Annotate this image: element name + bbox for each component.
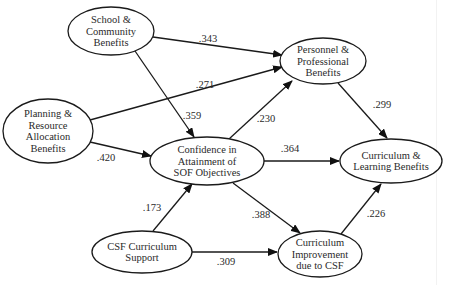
node-label-line: Attainment of (178, 156, 237, 167)
arrow-icon (229, 81, 292, 139)
node-label-line: Allocation (26, 131, 71, 142)
node-label-line: Planning & (24, 108, 72, 119)
node-confidence: Confidence inAttainment ofSOF Objectives (150, 137, 264, 185)
edge-school-to-confidence: .359 (135, 51, 201, 137)
path-coefficient: .230 (257, 113, 275, 124)
path-coefficient: .299 (373, 99, 391, 110)
node-label-line: Curriculum & (361, 150, 420, 161)
arrow-icon (338, 83, 387, 138)
node-label-line: Improvement (292, 249, 349, 260)
path-coefficient: .271 (196, 79, 214, 90)
nodes-layer: School &CommunityBenefitsPlanning &Resou… (3, 7, 442, 277)
edge-confidence-to-personnel: .230 (229, 81, 292, 139)
edge-planning-to-confidence: .420 (90, 142, 151, 163)
path-coefficient: .343 (199, 33, 217, 44)
path-coefficient: .420 (97, 152, 115, 163)
node-planning: Planning &ResourceAllocationBenefits (3, 99, 93, 163)
node-label-line: Community (86, 26, 137, 37)
node-curriculum-learning: Curriculum &Learning Benefits (340, 139, 442, 183)
edge-personnel-to-curriculum_learning: .299 (338, 83, 391, 138)
path-coefficient: .173 (143, 202, 161, 213)
node-label-line: Resource (28, 120, 67, 131)
edge-csf_support-to-curriculum_improvement: .309 (192, 252, 277, 267)
edge-curriculum_improvement-to-curriculum_learning: .226 (341, 184, 385, 234)
path-coefficient: .359 (183, 110, 201, 121)
node-label-line: Learning Benefits (353, 161, 429, 172)
path-coefficient: .309 (217, 256, 235, 267)
arrow-icon (233, 183, 300, 233)
arrow-icon (153, 37, 282, 55)
node-label-line: due to CSF (296, 260, 343, 271)
edge-school-to-personnel: .343 (153, 33, 282, 55)
node-label-line: Professional (297, 56, 349, 67)
node-label-line: School & (91, 14, 131, 25)
node-label-line: CSF Curriculum (107, 241, 177, 252)
node-label-line: Confidence in (177, 144, 237, 155)
node-label-line: Support (125, 252, 158, 263)
node-label-line: Benefits (306, 67, 341, 78)
edge-csf_support-to-confidence: .173 (143, 184, 192, 231)
node-label-line: Curriculum (296, 237, 344, 248)
node-label-line: Benefits (31, 143, 66, 154)
node-label-line: Benefits (94, 37, 129, 48)
node-label-line: SOF Objectives (174, 167, 241, 178)
edge-confidence-to-curriculum_improvement: .388 (233, 183, 300, 233)
edge-confidence-to-curriculum_learning: .364 (264, 143, 339, 161)
node-school: School &CommunityBenefits (68, 7, 154, 55)
node-csf-support: CSF CurriculumSupport (92, 231, 192, 273)
path-coefficient: .388 (252, 209, 270, 220)
path-coefficient: .226 (367, 208, 385, 219)
path-coefficient: .364 (281, 143, 300, 154)
node-personnel: Personnel &ProfessionalBenefits (280, 38, 366, 84)
node-curriculum-improvement: CurriculumImprovementdue to CSF (278, 231, 362, 277)
path-diagram: .343.271.359.420.230.299.364.388.173.309… (0, 0, 455, 285)
node-label-line: Personnel & (297, 44, 349, 55)
